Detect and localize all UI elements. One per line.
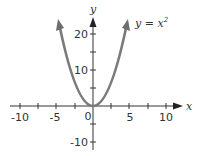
x-tick-label: -10 — [11, 111, 29, 124]
equation-label: y = x2 — [134, 16, 169, 30]
x-axis-label: x — [186, 100, 193, 113]
y-tick-label: 10 — [74, 64, 88, 77]
x-tick-label: 5 — [127, 111, 134, 124]
curve-left-arrow-icon — [56, 19, 64, 31]
parabola-chart: x y -10 -5 0 5 10 -10 10 20 y = x2 — [0, 0, 198, 156]
equation-exponent: 2 — [163, 16, 169, 24]
y-tick-label: -10 — [70, 136, 88, 149]
curve-right-arrow-icon — [122, 19, 130, 31]
y-axis-arrow-icon — [90, 17, 97, 27]
x-axis-arrow-icon — [173, 103, 183, 110]
x-tick-label: -5 — [50, 111, 61, 124]
y-tick-label: 20 — [74, 28, 88, 41]
x-tick-label: 10 — [159, 111, 173, 124]
equation-base: y = x — [134, 17, 164, 30]
x-tick-label: 0 — [85, 110, 92, 123]
y-axis-label: y — [89, 3, 97, 16]
